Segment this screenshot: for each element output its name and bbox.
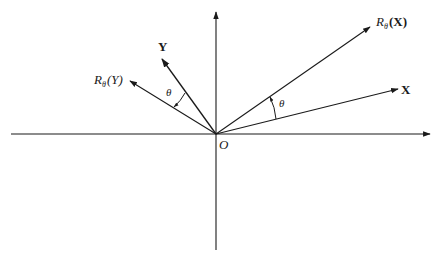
svg-text:(Y): (Y) <box>107 72 123 87</box>
svg-text:θ: θ <box>102 80 106 89</box>
origin-label: O <box>219 137 229 152</box>
rotation-diagram: O θ θ X Y R θ (X) R θ (Y) <box>0 0 438 257</box>
angle-label-x: θ <box>279 97 285 109</box>
svg-text:θ: θ <box>384 22 388 31</box>
vector-r-theta-x <box>216 27 370 134</box>
vector-r-theta-y <box>130 81 216 134</box>
angle-arc-y <box>174 93 185 107</box>
vector-x-label: X <box>401 82 411 97</box>
svg-text:(X): (X) <box>389 14 407 29</box>
vector-x <box>216 89 398 134</box>
r-theta-y-label: R θ (Y) <box>93 72 123 89</box>
angle-arc-x <box>270 97 276 119</box>
r-theta-x-label: R θ (X) <box>375 14 407 31</box>
svg-text:R: R <box>93 72 102 87</box>
svg-text:R: R <box>375 14 384 29</box>
angle-label-y: θ <box>166 86 172 98</box>
vector-y-label: Y <box>158 39 168 54</box>
